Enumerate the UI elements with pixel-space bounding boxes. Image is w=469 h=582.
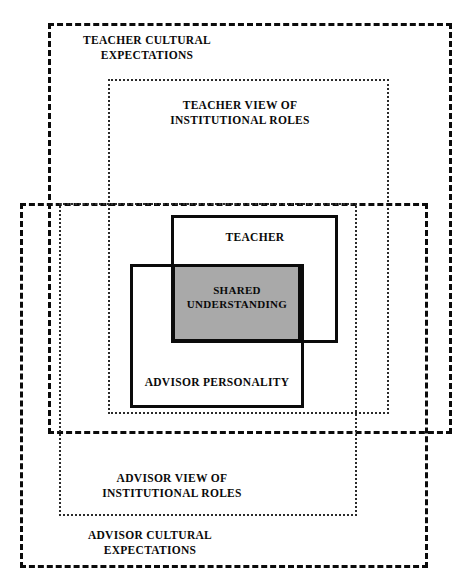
label-advisor-view-of-institutional-roles: ADVISOR VIEW OF INSTITUTIONAL ROLES bbox=[72, 471, 272, 501]
label-teacher-view-of-institutional-roles: TEACHER VIEW OF INSTITUTIONAL ROLES bbox=[140, 98, 340, 128]
label-teacher-cultural-expectations: TEACHER CULTURAL EXPECTATIONS bbox=[62, 33, 232, 63]
diagram-canvas: TEACHER CULTURAL EXPECTATIONS TEACHER VI… bbox=[0, 0, 469, 582]
label-teacher: TEACHER bbox=[180, 230, 330, 245]
label-advisor-personality: ADVISOR PERSONALITY bbox=[134, 375, 300, 390]
label-shared-understanding: SHARED UNDERSTANDING bbox=[176, 283, 298, 311]
label-advisor-cultural-expectations: ADVISOR CULTURAL EXPECTATIONS bbox=[60, 528, 240, 558]
